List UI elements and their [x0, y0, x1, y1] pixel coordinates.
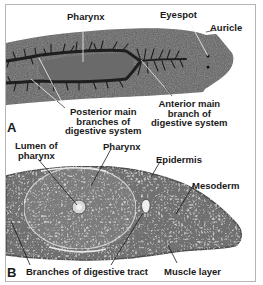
label-epidermis: Epidermis [156, 155, 202, 165]
figure-frame: Pharynx Eyespot Auricle Posterior main b… [5, 4, 256, 282]
panel-letter-a: A [7, 120, 16, 135]
label-posterior-branches: Posterior main branches of digestive sys… [65, 107, 142, 136]
label-auricle: Auricle [210, 23, 242, 33]
label-eyespot: Eyespot [160, 10, 197, 20]
label-lumen-of-pharynx: Lumen of pharynx [15, 141, 58, 160]
label-anterior-branch: Anterior main branch of digestive system [151, 99, 228, 128]
label-mesoderm: Mesoderm [192, 181, 240, 191]
label-pharynx-a: Pharynx [67, 12, 105, 22]
label-branches-of-digestive-tract: Branches of digestive tract [26, 267, 148, 277]
label-muscle-layer: Muscle layer [164, 267, 221, 277]
label-pharynx-b: Pharynx [103, 142, 141, 152]
panel-letter-b: B [7, 265, 16, 280]
